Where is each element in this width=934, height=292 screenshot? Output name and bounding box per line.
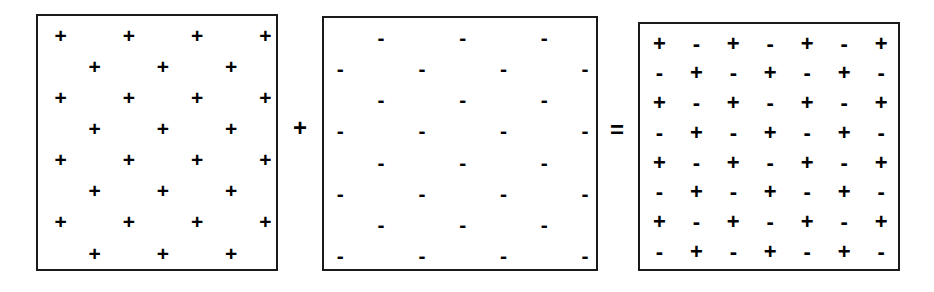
minus-glyph: - bbox=[337, 182, 344, 203]
minus-glyph: - bbox=[693, 33, 700, 55]
minus-glyph: - bbox=[582, 182, 589, 203]
plus-glyph: + bbox=[653, 33, 666, 55]
minus-glyph: - bbox=[418, 58, 425, 79]
plus-glyph: + bbox=[225, 180, 237, 201]
minus-glyph: - bbox=[378, 26, 385, 47]
minus-glyph: - bbox=[841, 33, 848, 55]
minus-glyph: - bbox=[459, 151, 466, 172]
plus-glyph: + bbox=[690, 181, 703, 203]
plus-glyph: + bbox=[764, 181, 777, 203]
minus-glyph: - bbox=[418, 245, 425, 266]
plus-glyph: + bbox=[875, 33, 888, 55]
plus-glyph: + bbox=[191, 24, 203, 45]
plus-glyph: + bbox=[727, 152, 740, 174]
plus-glyph: + bbox=[191, 211, 203, 232]
plus-glyph: + bbox=[54, 24, 66, 45]
minus-glyph: - bbox=[804, 62, 811, 84]
plus-glyph: + bbox=[191, 149, 203, 170]
minus-glyph: - bbox=[804, 241, 811, 263]
minus-glyph: - bbox=[337, 58, 344, 79]
minus-glyph: - bbox=[378, 151, 385, 172]
minus-glyph: - bbox=[730, 122, 737, 144]
plus-glyph: + bbox=[157, 118, 169, 139]
plus-glyph: + bbox=[157, 242, 169, 263]
plus-glyph: + bbox=[838, 181, 851, 203]
minus-glyph: - bbox=[656, 181, 663, 203]
minus-glyph: - bbox=[459, 89, 466, 110]
minus-glyph: - bbox=[500, 58, 507, 79]
minus-glyph: - bbox=[767, 211, 774, 233]
plus-glyph: + bbox=[764, 62, 777, 84]
plus-glyph: + bbox=[875, 152, 888, 174]
minus-glyph: - bbox=[378, 89, 385, 110]
plus-glyph: + bbox=[259, 149, 271, 170]
minus-glyph: - bbox=[730, 241, 737, 263]
minus-glyph: - bbox=[418, 182, 425, 203]
minus-glyph: - bbox=[582, 120, 589, 141]
plus-glyph: + bbox=[89, 118, 101, 139]
plus-glyph: + bbox=[157, 180, 169, 201]
plus-glyph: + bbox=[123, 149, 135, 170]
plus-glyph: + bbox=[54, 149, 66, 170]
panel-checkerboard-result: +-+-+-+-+-+-+-+-+-+-+-+-+-+-+-+-+-+-+-+-… bbox=[638, 22, 900, 271]
minus-glyph: - bbox=[767, 33, 774, 55]
plus-glyph: + bbox=[123, 24, 135, 45]
plus-glyph: + bbox=[690, 241, 703, 263]
minus-glyph: - bbox=[656, 122, 663, 144]
plus-glyph: + bbox=[89, 242, 101, 263]
plus-glyph: + bbox=[764, 122, 777, 144]
lattice-minus: ---------------------------- bbox=[324, 18, 596, 269]
minus-glyph: - bbox=[541, 213, 548, 234]
minus-glyph: - bbox=[841, 152, 848, 174]
sign-lattice-equation: ++++++++++++++++++++++++++++ + ---------… bbox=[0, 0, 934, 292]
plus-glyph: + bbox=[653, 152, 666, 174]
panel-plus-lattice: ++++++++++++++++++++++++++++ bbox=[36, 14, 278, 271]
plus-glyph: + bbox=[191, 87, 203, 108]
plus-glyph: + bbox=[89, 180, 101, 201]
plus-glyph: + bbox=[123, 87, 135, 108]
minus-glyph: - bbox=[693, 211, 700, 233]
plus-glyph: + bbox=[157, 56, 169, 77]
minus-glyph: - bbox=[541, 89, 548, 110]
plus-glyph: + bbox=[764, 241, 777, 263]
plus-glyph: + bbox=[690, 122, 703, 144]
minus-glyph: - bbox=[767, 152, 774, 174]
plus-glyph: + bbox=[225, 56, 237, 77]
minus-glyph: - bbox=[878, 181, 885, 203]
minus-glyph: - bbox=[841, 92, 848, 114]
plus-glyph: + bbox=[875, 92, 888, 114]
plus-glyph: + bbox=[259, 211, 271, 232]
plus-glyph: + bbox=[653, 211, 666, 233]
minus-glyph: - bbox=[841, 211, 848, 233]
plus-glyph: + bbox=[89, 56, 101, 77]
minus-glyph: - bbox=[541, 26, 548, 47]
minus-glyph: - bbox=[582, 245, 589, 266]
panel-minus-lattice: ---------------------------- bbox=[322, 16, 598, 271]
minus-glyph: - bbox=[459, 213, 466, 234]
plus-glyph: + bbox=[54, 87, 66, 108]
plus-glyph: + bbox=[123, 211, 135, 232]
minus-glyph: - bbox=[693, 152, 700, 174]
plus-glyph: + bbox=[875, 211, 888, 233]
plus-glyph: + bbox=[838, 241, 851, 263]
minus-glyph: - bbox=[767, 92, 774, 114]
minus-glyph: - bbox=[656, 241, 663, 263]
plus-glyph: + bbox=[225, 242, 237, 263]
minus-glyph: - bbox=[337, 245, 344, 266]
minus-glyph: - bbox=[730, 62, 737, 84]
lattice-plus: ++++++++++++++++++++++++++++ bbox=[38, 16, 276, 269]
minus-glyph: - bbox=[656, 62, 663, 84]
plus-glyph: + bbox=[727, 33, 740, 55]
plus-glyph: + bbox=[801, 92, 814, 114]
operator-plus-sign: + bbox=[293, 116, 307, 140]
minus-glyph: - bbox=[693, 92, 700, 114]
plus-glyph: + bbox=[727, 211, 740, 233]
plus-glyph: + bbox=[838, 62, 851, 84]
minus-glyph: - bbox=[804, 122, 811, 144]
minus-glyph: - bbox=[337, 120, 344, 141]
lattice-checkerboard: +-+-+-+-+-+-+-+-+-+-+-+-+-+-+-+-+-+-+-+-… bbox=[640, 24, 898, 269]
minus-glyph: - bbox=[459, 26, 466, 47]
minus-glyph: - bbox=[878, 62, 885, 84]
plus-glyph: + bbox=[801, 211, 814, 233]
minus-glyph: - bbox=[500, 245, 507, 266]
